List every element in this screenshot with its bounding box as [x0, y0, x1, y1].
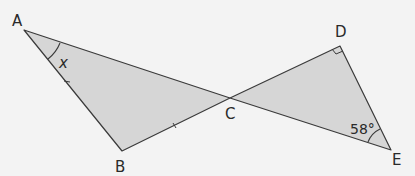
- triangle-abc: [24, 30, 230, 151]
- label-c: C: [225, 105, 235, 123]
- geometry-diagram: A B C D E x 58°: [0, 0, 415, 176]
- label-b: B: [115, 158, 125, 176]
- label-e: E: [392, 151, 401, 169]
- angle-label-x: x: [58, 54, 68, 72]
- label-d: D: [335, 23, 347, 41]
- diagram-canvas: A B C D E x 58°: [0, 0, 415, 176]
- angle-label-58: 58°: [350, 121, 375, 137]
- label-a: A: [12, 12, 23, 30]
